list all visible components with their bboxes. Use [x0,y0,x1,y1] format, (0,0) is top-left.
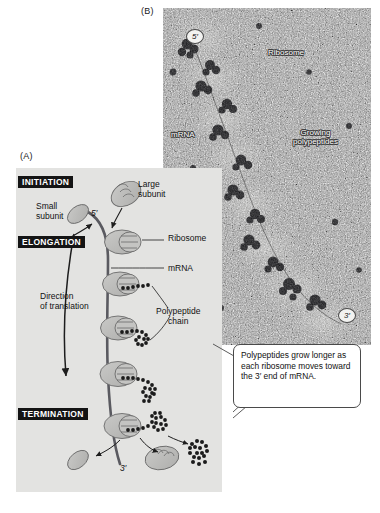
label-polypeptide-chain: Polypeptide chain [156,307,200,326]
label-large-subunit: Large subunit [138,180,165,199]
diagram-five-prime-label: 5′ [91,208,97,218]
micrograph-label-growing-polypeptides: Growing polypeptides [293,128,338,146]
panel-a-letter: (A) [20,151,33,161]
ribosome-on-mrna-2 [103,272,150,296]
label-direction-of-translation: Direction of translation [40,292,89,311]
stage-label-elongation: ELONGATION [18,236,85,248]
callout-text: Polypeptides grow longer as each ribosom… [241,350,350,381]
micrograph-label-mrna: mRNA [171,130,195,139]
diagram-three-prime-label: 3′ [120,463,126,473]
stage-label-termination: TERMINATION [18,408,88,420]
panel-b-letter: (B) [141,6,154,16]
micrograph-five-prime-marker: 5′ [186,29,204,44]
large-subunit-released [143,443,181,473]
micrograph-label-ribosome: Ribosome [268,48,304,57]
stage-label-initiation: INITIATION [18,176,73,188]
label-ribosome: Ribosome [168,234,206,244]
small-subunit-free [64,201,92,228]
polypeptide-chain-released-2 [188,439,209,466]
figure-translation: (A) (B) [0,0,380,513]
callout-box: Polypeptides grow longer as each ribosom… [233,344,361,408]
label-small-subunit: Small subunit [36,202,63,221]
micrograph-three-prime-marker: 3′ [338,308,356,323]
small-subunit-released [64,447,92,474]
ribosome-on-mrna-1 [105,230,142,254]
label-mrna: mRNA [168,264,193,274]
